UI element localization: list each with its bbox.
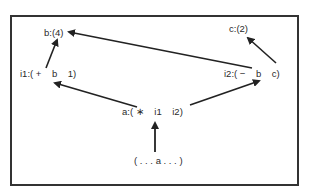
edge-i2c-to-c <box>248 38 276 63</box>
node-b: b:(4) <box>44 27 64 38</box>
edge-i2b-to-b <box>69 32 252 68</box>
node-expression: ( . . . a . . . ) <box>134 155 183 166</box>
edge-a-to-i1b <box>55 83 137 107</box>
edge-a-to-i2b <box>190 81 259 105</box>
node-c: c:(2) <box>229 23 248 34</box>
node-i1: i1:( + b 1) <box>20 68 76 79</box>
node-i2: i2:( − b c) <box>224 68 280 79</box>
edge-i1-to-b <box>46 40 57 68</box>
node-a: a:( ∗ i1 i2) <box>122 106 183 117</box>
